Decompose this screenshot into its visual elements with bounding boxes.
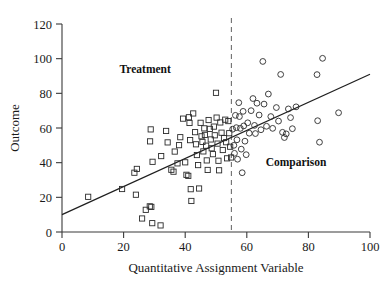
data-point-circle — [239, 170, 245, 176]
data-point-square — [226, 118, 231, 123]
data-point-square — [150, 159, 155, 164]
data-point-square — [139, 216, 144, 221]
y-tick-label: 100 — [33, 52, 52, 66]
data-point-square — [86, 194, 91, 199]
data-point-square — [223, 117, 228, 122]
data-point-circle — [270, 125, 276, 131]
data-point-square — [164, 128, 169, 133]
data-point-circle — [230, 126, 236, 132]
data-point-circle — [314, 72, 320, 78]
y-tick-label: 20 — [40, 191, 53, 205]
data-point-circle — [258, 127, 264, 133]
data-point-square — [196, 162, 201, 167]
y-axis-title: Outcome — [7, 104, 22, 152]
data-point-square — [199, 134, 204, 139]
data-point-square — [148, 127, 153, 132]
plot-canvas: 020406080100120020406080100TreatmentComp… — [0, 0, 389, 282]
data-point-square — [216, 158, 221, 163]
data-point-square — [210, 152, 215, 157]
data-point-square — [206, 117, 211, 122]
data-point-circle — [281, 135, 287, 141]
data-point-square — [196, 186, 201, 191]
data-point-square — [220, 147, 225, 152]
data-point-circle — [233, 112, 239, 118]
data-point-square — [219, 130, 224, 135]
data-point-circle — [276, 118, 282, 124]
data-point-square — [193, 142, 198, 147]
y-tick-label: 120 — [33, 18, 52, 32]
annotation-comparison: Comparison — [266, 156, 327, 169]
data-point-square — [192, 130, 197, 135]
data-point-circle — [288, 115, 294, 121]
data-point-circle — [278, 72, 284, 78]
data-point-circle — [245, 120, 251, 126]
data-point-circle — [254, 100, 260, 106]
annotation-treatment: Treatment — [120, 63, 171, 75]
data-point-circle — [242, 138, 248, 144]
x-tick-label: 60 — [241, 240, 254, 254]
data-point-square — [159, 153, 164, 158]
data-point-square — [205, 167, 210, 172]
data-point-square — [172, 149, 177, 154]
x-tick-label: 0 — [59, 240, 65, 254]
data-point-square — [165, 140, 170, 145]
data-point-circle — [317, 139, 323, 145]
scatter-plot-figure: 020406080100120020406080100TreatmentComp… — [0, 0, 389, 282]
data-point-circle — [283, 131, 289, 137]
data-point-square — [200, 139, 205, 144]
data-point-circle — [264, 123, 270, 129]
y-tick-label: 80 — [40, 87, 53, 101]
data-point-circle — [253, 131, 259, 137]
y-tick-label: 0 — [46, 226, 52, 240]
data-point-circle — [260, 59, 266, 65]
data-point-square — [187, 120, 192, 125]
data-point-circle — [238, 146, 244, 152]
x-tick-label: 20 — [117, 240, 130, 254]
data-point-square — [216, 168, 221, 173]
data-point-square — [133, 192, 138, 197]
data-point-square — [180, 116, 185, 121]
data-point-circle — [265, 91, 271, 97]
data-point-square — [202, 126, 207, 131]
data-point-circle — [256, 112, 262, 118]
data-point-square — [183, 160, 188, 165]
x-tick-label: 80 — [302, 240, 315, 254]
y-tick-label: 60 — [40, 122, 53, 136]
data-point-circle — [315, 118, 321, 124]
data-point-square — [188, 187, 193, 192]
data-point-square — [213, 90, 218, 95]
data-point-circle — [237, 114, 243, 120]
x-axis-title: Quantitative Assignment Variable — [128, 260, 303, 275]
data-point-square — [188, 138, 193, 143]
data-point-square — [178, 135, 183, 140]
data-point-square — [189, 198, 194, 203]
data-point-circle — [248, 108, 254, 114]
data-point-square — [202, 132, 207, 137]
x-tick-label: 40 — [179, 240, 192, 254]
data-point-square — [198, 120, 203, 125]
data-point-circle — [235, 156, 241, 162]
data-point-circle — [289, 126, 295, 132]
data-point-circle — [246, 130, 252, 136]
data-point-square — [176, 143, 181, 148]
data-point-circle — [268, 114, 274, 120]
data-point-circle — [234, 137, 240, 143]
data-point-circle — [232, 150, 238, 156]
data-point-circle — [320, 55, 326, 61]
x-tick-label: 100 — [361, 240, 380, 254]
data-point-square — [147, 139, 152, 144]
y-tick-label: 40 — [40, 156, 53, 170]
data-point-circle — [261, 101, 267, 107]
data-point-circle — [243, 152, 249, 158]
data-point-square — [158, 223, 163, 228]
data-point-circle — [240, 108, 246, 114]
data-point-circle — [236, 100, 242, 106]
series-treatment — [86, 90, 234, 228]
data-point-circle — [336, 110, 342, 116]
data-point-circle — [273, 105, 279, 111]
data-point-square — [204, 158, 209, 163]
data-point-square — [150, 221, 155, 226]
data-point-circle — [233, 125, 239, 131]
